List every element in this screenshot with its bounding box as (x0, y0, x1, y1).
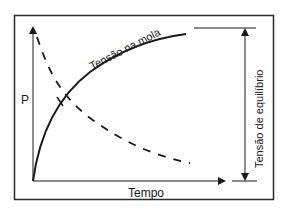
equilibrium-tension-label: Tensão de equilíbrio (253, 70, 265, 168)
spring-tension-label: Tensão na mola (87, 25, 162, 71)
x-axis-label: Tempo (128, 186, 164, 200)
diagram-canvas: P Tempo Tensão na mola Tensão de equilíb… (0, 0, 287, 219)
y-axis-label: P (21, 93, 29, 107)
